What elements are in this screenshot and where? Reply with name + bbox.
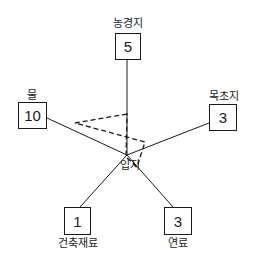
axis-pasture — [127, 123, 209, 155]
node-value-fuel: 3 — [164, 207, 192, 235]
node-label-water: 물 — [27, 90, 37, 102]
node-value-farmland: 5 — [115, 33, 141, 60]
axis-water — [47, 118, 127, 155]
node-label-fuel: 연료 — [168, 238, 188, 250]
node-value-water: 10 — [18, 102, 47, 129]
node-label-pasture: 목초지 — [209, 91, 239, 103]
node-value-building-materials: 1 — [64, 207, 91, 235]
center-label: 입지 — [120, 160, 140, 172]
node-value-pasture: 3 — [209, 104, 237, 131]
node-label-building-materials: 건축재료 — [58, 238, 98, 250]
node-label-farmland: 농경지 — [113, 18, 143, 30]
